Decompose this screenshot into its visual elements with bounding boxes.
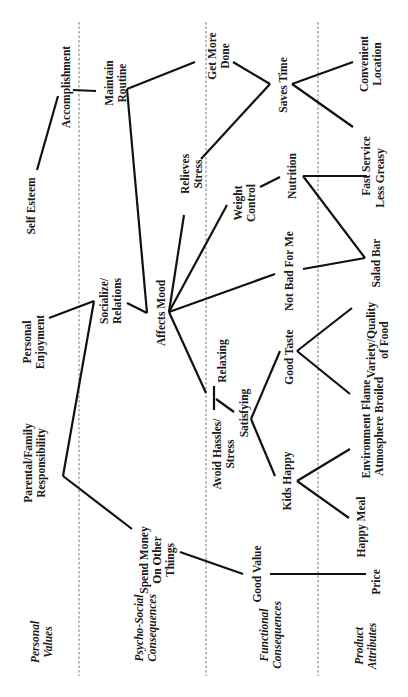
- link-weight-nutrition: [260, 177, 280, 187]
- link-satisfying-kidshappy: [251, 419, 275, 476]
- link-getmoredone-savestime: [233, 62, 270, 84]
- node-personal-enjoyment: Personal Enjoyment: [21, 315, 47, 369]
- node-affects-mood: Affects Mood: [155, 280, 168, 346]
- link-goodtaste-variety: [297, 308, 352, 351]
- node-spend-money: Spend Money On Other Things: [138, 526, 177, 593]
- node-saves-time: Saves Time: [277, 57, 290, 112]
- level-label-product-attributes: Product Attributes: [353, 623, 379, 670]
- level-label-personal-values: Personal Values: [29, 621, 55, 663]
- link-mood-notbadforme: [169, 274, 275, 312]
- node-maintain-routine: Maintain Routine: [103, 60, 129, 105]
- level-label-psycho-social: Psycho-Social Consequences: [133, 594, 159, 662]
- node-nutrition: Nutrition: [286, 153, 299, 199]
- node-convenient-location: Convenient Location: [358, 36, 384, 92]
- link-relievesstress-savestime: [201, 84, 270, 159]
- link-enjoyment-socialize: [49, 301, 94, 318]
- node-accomplishment: Accomplishment: [60, 46, 73, 128]
- link-kidshappy-environment: [297, 449, 350, 481]
- link-satisfying-goodtaste: [251, 351, 280, 419]
- link-mood-relaxing: [169, 312, 206, 393]
- link-routine-getmoredone: [127, 62, 195, 89]
- link-routine-affectsmood: [127, 89, 147, 313]
- link-savestime-convenient: [292, 62, 353, 84]
- node-socialize-relations: Socialize/ Relations: [98, 278, 124, 324]
- node-price: Price: [370, 569, 383, 595]
- node-get-more-done: Get More Done: [206, 32, 232, 79]
- level-label-functional: Functional Consequences: [258, 601, 284, 669]
- link-goodtaste-flame: [297, 351, 350, 394]
- node-flame-broiled: Flame Broiled: [360, 377, 386, 413]
- link-parental-spendmoney: [63, 476, 132, 529]
- links: [37, 62, 367, 574]
- link-nutrition-saladbar: [303, 176, 365, 258]
- node-environment-atmosphere: Environment Atmosphere: [360, 414, 386, 479]
- node-weight-control: Weight Control: [232, 184, 258, 222]
- node-not-bad-for-me: Not Bad For Me: [283, 231, 296, 311]
- node-parental-family: Parental/Family Responsibility: [22, 423, 48, 503]
- node-salad-bar: Salad Bar: [370, 239, 383, 288]
- node-less-greasy: Less Greasy: [374, 148, 387, 208]
- node-happy-meal: Happy Meal: [355, 496, 368, 557]
- node-variety-quality: Variety/Quality of Food: [365, 302, 391, 378]
- node-relaxing: Relaxing: [216, 339, 229, 382]
- link-savestime-fastservice: [292, 84, 353, 127]
- node-avoid-hassles: Avoid Hassles/ Stress: [211, 418, 237, 489]
- node-self-esteem: Self Esteem: [25, 177, 38, 234]
- link-socialize-affectsmood: [127, 303, 147, 313]
- link-accomplishment-routine: [73, 90, 96, 91]
- node-good-value: Good Value: [251, 545, 264, 602]
- link-kidshappy-happymeal: [297, 481, 349, 518]
- node-good-taste: Good Taste: [283, 329, 296, 384]
- node-relieves-stress: Relieves Stress: [179, 154, 205, 194]
- link-notbad-saladbar: [303, 258, 365, 269]
- link-selfesteem-accomplishment: [37, 96, 58, 170]
- node-kids-happy: Kids Happy: [281, 451, 294, 510]
- link-avoid-satisfying: [216, 399, 234, 412]
- node-fast-service: Fast Service: [360, 136, 373, 196]
- link-spendmoney-goodvalue: [180, 552, 243, 574]
- node-satisfying: Satisfying: [238, 389, 251, 438]
